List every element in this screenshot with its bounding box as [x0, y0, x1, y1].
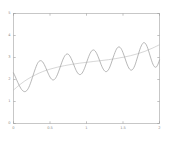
y-tick-label: 4: [0, 34, 11, 38]
y-tick-label: 0: [0, 122, 11, 126]
plot-canvas: [0, 0, 172, 142]
figure-background: [0, 0, 172, 142]
x-tick-label: 1.5: [120, 127, 126, 131]
y-tick-label: 1: [0, 100, 11, 104]
x-tick-label: 0.5: [47, 127, 53, 131]
y-tick-label: 5: [0, 12, 11, 16]
x-tick-label: 1: [85, 127, 87, 131]
x-tick-label: 0: [12, 127, 14, 131]
x-tick-label: 2: [158, 127, 160, 131]
y-tick-label: 2: [0, 78, 11, 82]
y-tick-label: 3: [0, 56, 11, 60]
chart-figure: 00.511.52 012345: [0, 0, 172, 142]
